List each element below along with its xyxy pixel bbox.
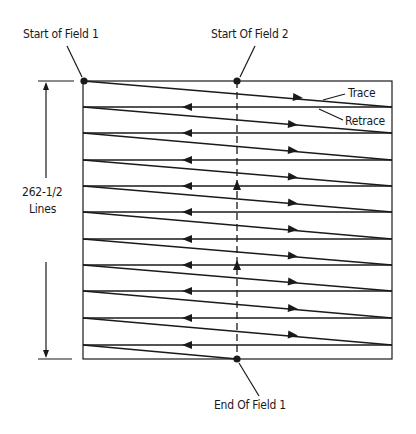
line-count-value-label: 262-1/2 [22, 185, 62, 199]
start-field-1-label: Start of Field 1 [23, 27, 99, 41]
end-field-1-label: End Of Field 1 [214, 398, 286, 412]
line-count-dimension [38, 81, 74, 359]
interlaced-scan-diagram [0, 0, 416, 434]
end-field-1-dot [233, 355, 240, 362]
trace-label: Trace [348, 86, 375, 100]
retrace-arrowheads [182, 103, 192, 349]
retrace-label: Retrace [345, 114, 385, 128]
line-count-unit-label: Lines [29, 202, 56, 216]
start-field-2-dot [233, 77, 240, 84]
start-field-1-dot [80, 77, 87, 84]
start-field-2-label: Start Of Field 2 [211, 27, 288, 41]
leader-lines [67, 46, 345, 396]
trace-arrowheads [288, 93, 304, 339]
